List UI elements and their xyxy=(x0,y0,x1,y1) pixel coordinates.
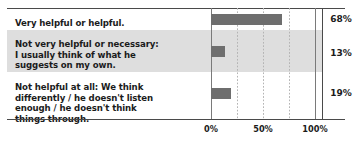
axis-tick-50: 50% xyxy=(243,124,283,134)
category-label-1: Not very helpful or necessary: I usually… xyxy=(15,39,205,71)
category-label-2-line-2: enough / he doesn't think xyxy=(15,103,205,114)
category-label-0: Very helpful or helpful. xyxy=(15,18,205,29)
category-label-1-line-2: suggests on my own. xyxy=(15,60,205,71)
bottom-rule xyxy=(7,119,345,120)
category-label-1-line-0: Not very helpful or necessary: xyxy=(15,39,205,50)
category-label-2-line-0: Not helpful at all: We think xyxy=(15,82,205,93)
value-label-2: 19% xyxy=(325,88,357,98)
axis-tick-0: 0% xyxy=(191,124,231,134)
axis-tick-100: 100% xyxy=(295,124,335,134)
bar-row-0 xyxy=(211,14,282,25)
value-label-1: 13% xyxy=(325,48,357,58)
axis-line-hundred xyxy=(315,8,316,119)
bar-row-1 xyxy=(211,46,225,57)
category-label-2-line-1: differently / he doesn't listen xyxy=(15,93,205,104)
category-label-1-line-1: I usually think of what he xyxy=(15,50,205,61)
percent-column-separator xyxy=(322,8,323,119)
chart-container: Very helpful or helpful. Not very helpfu… xyxy=(0,0,360,146)
category-label-column: Very helpful or helpful. Not very helpfu… xyxy=(0,8,205,119)
bar-row-2 xyxy=(211,88,231,99)
value-label-0: 68% xyxy=(325,14,357,24)
gridline-75 xyxy=(289,8,290,119)
category-label-0-line-0: Very helpful or helpful. xyxy=(15,18,205,29)
